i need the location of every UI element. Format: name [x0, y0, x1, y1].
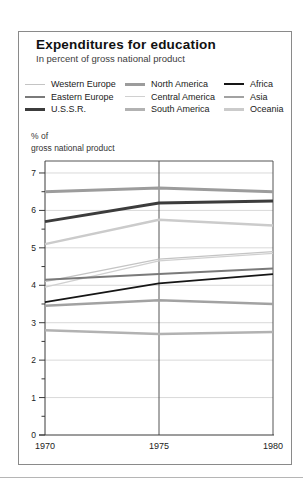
y-tick-label-6: 6	[31, 205, 36, 215]
x-tick-label-1975: 1975	[149, 441, 169, 451]
chart-card: Expenditures for education In percent of…	[18, 31, 292, 465]
y-tick-label-5: 5	[31, 243, 36, 253]
bottom-rule	[0, 477, 303, 478]
y-tick-label-0: 0	[31, 430, 36, 440]
x-tick-label-1980: 1980	[263, 441, 283, 451]
line-chart: 01234567197019751980	[19, 32, 291, 464]
y-tick-label-1: 1	[31, 393, 36, 403]
y-tick-label-7: 7	[31, 168, 36, 178]
x-tick-label-1970: 1970	[35, 441, 55, 451]
y-tick-label-3: 3	[31, 318, 36, 328]
y-tick-label-4: 4	[31, 280, 36, 290]
y-tick-label-2: 2	[31, 355, 36, 365]
page: Expenditures for education In percent of…	[0, 0, 303, 490]
